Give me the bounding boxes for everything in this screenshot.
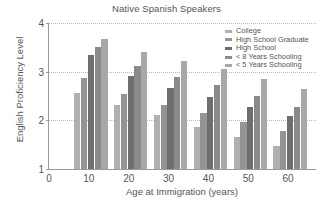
legend-swatch-icon: [225, 64, 232, 67]
bar: [261, 79, 267, 169]
y-tick-mark: [46, 72, 50, 73]
bar: [221, 69, 227, 169]
y-tick-label: 4: [38, 18, 44, 29]
y-tick-label: 2: [38, 115, 44, 126]
y-axis-label: English Proficiency Level: [14, 15, 25, 165]
bar: [254, 96, 260, 169]
x-tick-label: 0: [46, 173, 52, 184]
legend-item: < 5 Years Schooling: [225, 61, 309, 70]
bar-group: [194, 23, 227, 169]
bar-group: [114, 23, 147, 169]
y-tick-label: 3: [38, 66, 44, 77]
bar: [200, 113, 206, 169]
bar: [174, 77, 180, 169]
bar-group: [154, 23, 187, 169]
bar: [88, 55, 94, 169]
x-tick-label: 20: [123, 173, 134, 184]
bar: [161, 105, 167, 169]
bar-group: [74, 23, 107, 169]
bar: [207, 97, 213, 169]
bar: [101, 39, 107, 169]
legend-label: < 5 Years Schooling: [236, 61, 302, 70]
bar: [240, 122, 246, 169]
bar: [301, 89, 307, 169]
bar: [134, 66, 140, 169]
legend-swatch-icon: [225, 47, 232, 50]
bar: [141, 52, 147, 169]
bar: [121, 94, 127, 169]
bar: [294, 107, 300, 169]
bar: [181, 61, 187, 169]
bar: [247, 107, 253, 169]
legend-swatch-icon: [225, 38, 232, 41]
bar: [81, 78, 87, 169]
bar: [280, 131, 286, 169]
legend-swatch-icon: [225, 30, 232, 33]
bar: [154, 115, 160, 169]
bar: [128, 76, 134, 169]
bar: [287, 116, 293, 169]
x-tick-label: 50: [243, 173, 254, 184]
x-tick-label: 60: [283, 173, 294, 184]
bar: [273, 146, 279, 169]
bar: [114, 105, 120, 169]
x-tick-label: 40: [203, 173, 214, 184]
bar: [234, 137, 240, 169]
bar: [214, 85, 220, 169]
y-tick-mark: [46, 169, 50, 170]
x-tick-label: 30: [163, 173, 174, 184]
y-tick-mark: [46, 120, 50, 121]
bar-chart: Native Spanish Speakers English Proficie…: [0, 0, 333, 215]
bar: [95, 47, 101, 169]
bar: [194, 127, 200, 169]
x-tick-label: 10: [83, 173, 94, 184]
bar: [167, 88, 173, 169]
x-axis-label: Age at Immigration (years): [48, 186, 316, 197]
bar: [74, 93, 80, 169]
chart-title: Native Spanish Speakers: [0, 3, 333, 14]
y-tick-mark: [46, 23, 50, 24]
legend: CollegeHigh School GraduateHigh School< …: [225, 27, 309, 70]
legend-swatch-icon: [225, 56, 232, 59]
y-tick-label: 1: [38, 164, 44, 175]
